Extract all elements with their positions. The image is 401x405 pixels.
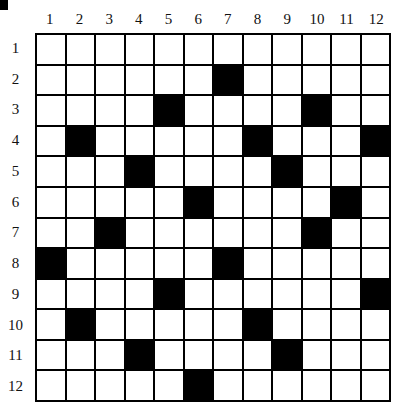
grid-cell[interactable] (214, 188, 242, 217)
grid-cell[interactable] (96, 35, 124, 64)
grid-cell[interactable] (96, 341, 124, 370)
grid-cell[interactable] (273, 249, 301, 278)
grid-cell[interactable] (273, 96, 301, 125)
grid-cell[interactable] (96, 127, 124, 156)
grid-cell[interactable] (244, 219, 272, 248)
grid-cell[interactable] (126, 35, 154, 64)
grid-cell[interactable] (332, 96, 360, 125)
grid-cell[interactable] (155, 188, 183, 217)
grid-cell[interactable] (155, 341, 183, 370)
grid-cell[interactable] (126, 127, 154, 156)
grid-cell[interactable] (303, 188, 331, 217)
grid-cell[interactable] (37, 35, 65, 64)
grid-cell[interactable] (303, 35, 331, 64)
grid-cell[interactable] (96, 157, 124, 186)
grid-cell[interactable] (244, 371, 272, 400)
grid-cell[interactable] (185, 96, 213, 125)
grid-cell[interactable] (96, 188, 124, 217)
grid-cell[interactable] (332, 341, 360, 370)
grid-cell[interactable] (244, 249, 272, 278)
grid-cell[interactable] (37, 157, 65, 186)
grid-cell[interactable] (332, 371, 360, 400)
grid-cell[interactable] (126, 371, 154, 400)
grid-cell[interactable] (362, 219, 390, 248)
grid-cell[interactable] (244, 66, 272, 95)
grid-cell[interactable] (303, 280, 331, 309)
grid-cell[interactable] (155, 310, 183, 339)
grid-cell[interactable] (362, 96, 390, 125)
grid-cell[interactable] (332, 157, 360, 186)
grid-cell[interactable] (214, 371, 242, 400)
grid-cell[interactable] (185, 341, 213, 370)
grid-cell[interactable] (362, 249, 390, 278)
grid-cell[interactable] (96, 249, 124, 278)
grid-cell[interactable] (332, 219, 360, 248)
grid-cell[interactable] (362, 35, 390, 64)
grid-cell[interactable] (67, 66, 95, 95)
grid-cell[interactable] (67, 249, 95, 278)
grid-cell[interactable] (126, 219, 154, 248)
grid-cell[interactable] (96, 96, 124, 125)
grid-cell[interactable] (126, 249, 154, 278)
grid-cell[interactable] (126, 66, 154, 95)
grid-cell[interactable] (273, 66, 301, 95)
grid-cell[interactable] (273, 310, 301, 339)
grid-cell[interactable] (185, 310, 213, 339)
grid-cell[interactable] (214, 127, 242, 156)
grid-cell[interactable] (244, 188, 272, 217)
grid-cell[interactable] (214, 35, 242, 64)
grid-cell[interactable] (155, 371, 183, 400)
grid-cell[interactable] (185, 219, 213, 248)
grid-cell[interactable] (126, 96, 154, 125)
grid-cell[interactable] (303, 127, 331, 156)
grid-cell[interactable] (155, 219, 183, 248)
grid-cell[interactable] (37, 310, 65, 339)
grid-cell[interactable] (303, 371, 331, 400)
grid-cell[interactable] (303, 66, 331, 95)
grid-cell[interactable] (214, 157, 242, 186)
grid-cell[interactable] (244, 341, 272, 370)
grid-cell[interactable] (303, 249, 331, 278)
grid-cell[interactable] (303, 310, 331, 339)
grid-cell[interactable] (37, 66, 65, 95)
grid-cell[interactable] (273, 35, 301, 64)
grid-cell[interactable] (96, 371, 124, 400)
grid-cell[interactable] (67, 371, 95, 400)
grid-cell[interactable] (332, 35, 360, 64)
grid-cell[interactable] (214, 280, 242, 309)
grid-cell[interactable] (96, 66, 124, 95)
grid-cell[interactable] (273, 371, 301, 400)
grid-cell[interactable] (37, 219, 65, 248)
grid-cell[interactable] (273, 219, 301, 248)
grid-cell[interactable] (67, 219, 95, 248)
grid-cell[interactable] (37, 96, 65, 125)
grid-cell[interactable] (155, 35, 183, 64)
grid-cell[interactable] (96, 310, 124, 339)
grid-cell[interactable] (155, 249, 183, 278)
grid-cell[interactable] (273, 127, 301, 156)
grid-cell[interactable] (37, 280, 65, 309)
grid-cell[interactable] (362, 66, 390, 95)
grid-cell[interactable] (214, 341, 242, 370)
grid-cell[interactable] (362, 341, 390, 370)
grid-cell[interactable] (37, 127, 65, 156)
grid-cell[interactable] (332, 249, 360, 278)
grid-cell[interactable] (362, 157, 390, 186)
grid-cell[interactable] (185, 35, 213, 64)
grid-cell[interactable] (67, 35, 95, 64)
grid-cell[interactable] (244, 35, 272, 64)
grid-cell[interactable] (37, 371, 65, 400)
grid-cell[interactable] (362, 371, 390, 400)
grid-cell[interactable] (332, 66, 360, 95)
grid-cell[interactable] (155, 157, 183, 186)
grid-cell[interactable] (185, 127, 213, 156)
grid-cell[interactable] (303, 157, 331, 186)
grid-cell[interactable] (67, 280, 95, 309)
grid-cell[interactable] (67, 341, 95, 370)
grid-cell[interactable] (67, 188, 95, 217)
grid-cell[interactable] (185, 66, 213, 95)
grid-cell[interactable] (126, 188, 154, 217)
grid-cell[interactable] (332, 310, 360, 339)
grid-cell[interactable] (332, 280, 360, 309)
grid-cell[interactable] (273, 188, 301, 217)
